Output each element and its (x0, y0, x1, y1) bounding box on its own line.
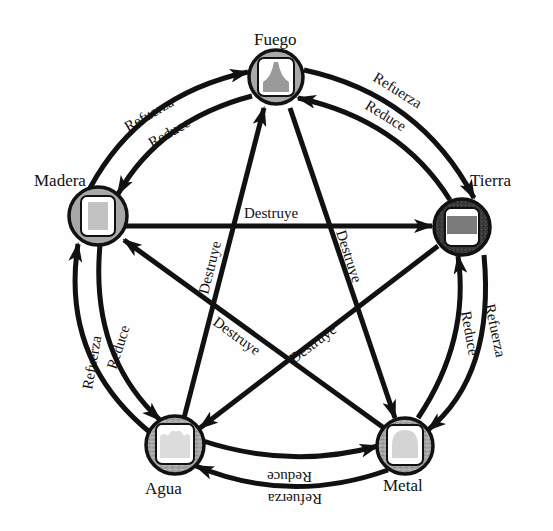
earth-band-icon (447, 216, 477, 234)
edge-metal-tierra (418, 256, 460, 418)
star-edges (124, 108, 438, 428)
label-refuerza-tierra-metal: Refuerza (482, 302, 509, 359)
node-madera: Madera (34, 171, 127, 245)
wave-shape-icon (160, 431, 190, 458)
node-agua: Agua (145, 416, 204, 498)
edge-agua-metal (200, 440, 378, 457)
label-refuerza-metal-agua: Refuerza (268, 491, 322, 507)
label-destruye-madera-tierra: Destruye (244, 205, 298, 221)
edge-labels: Refuerza Reduce Refuerza Reduce Refuerza… (79, 69, 509, 507)
label-destruye-tierra-agua: Destruye (286, 321, 339, 367)
node-tierra: Tierra (434, 171, 511, 255)
node-label-tierra: Tierra (470, 171, 511, 190)
dome-shape-icon (392, 430, 418, 458)
node-label-agua: Agua (145, 479, 182, 498)
wood-block-icon (88, 202, 108, 230)
node-label-madera: Madera (34, 171, 86, 190)
node-label-metal: Metal (383, 476, 423, 495)
five-elements-diagram: Refuerza Reduce Refuerza Reduce Refuerza… (0, 0, 553, 531)
node-metal: Metal (377, 418, 433, 495)
node-label-fuego: Fuego (254, 30, 297, 49)
node-fuego: Fuego (249, 30, 303, 104)
label-reduce-agua-metal: Reduce (267, 469, 312, 485)
edge-agua-fuego (184, 108, 264, 418)
label-reduce-metal-tierra: Reduce (458, 310, 482, 357)
